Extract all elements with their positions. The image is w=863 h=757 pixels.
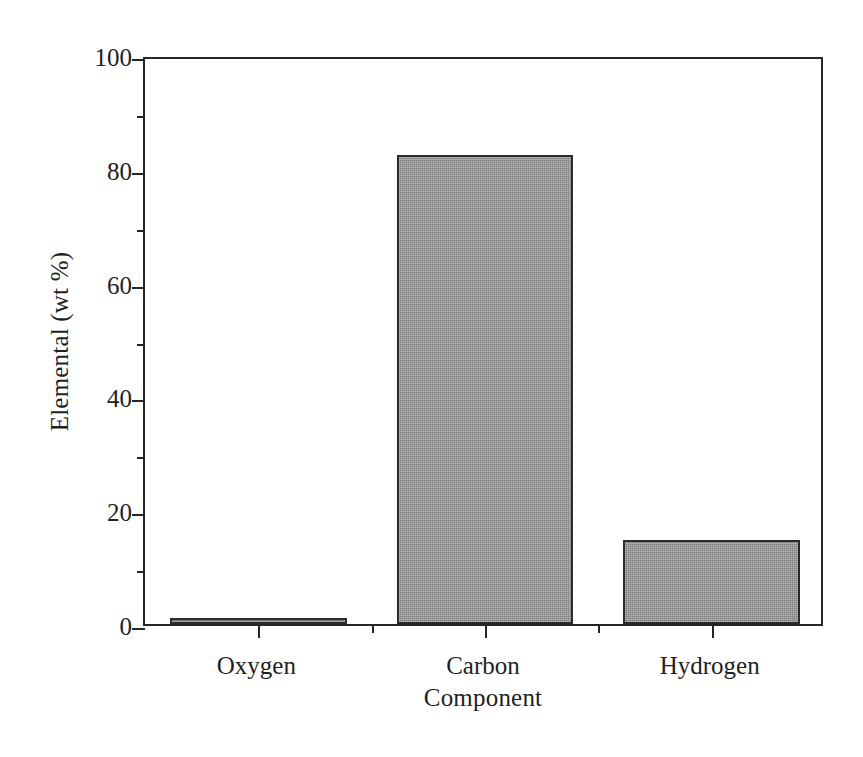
bar-hydrogen [623,540,800,624]
y-minor-tick-mark [137,571,145,573]
bar-carbon [397,155,574,624]
x-tick-label-hydrogen: Hydrogen [660,652,760,680]
y-tick-mark [132,400,145,402]
y-tick-label: 80 [107,158,132,186]
x-tick-label-oxygen: Oxygen [217,652,296,680]
y-tick-mark [132,173,145,175]
y-axis-title: Elemental (wt %) [40,57,80,626]
y-minor-tick-mark [137,116,145,118]
y-tick-label: 100 [95,44,133,72]
x-tick-mark [485,624,487,638]
x-minor-tick-mark [598,624,600,633]
x-tick-mark [258,624,260,638]
y-minor-tick-mark [137,344,145,346]
y-tick-label: 20 [107,500,132,528]
x-tick-mark [712,624,714,638]
plot-area: 020406080100 [143,57,823,626]
y-tick-mark [132,287,145,289]
x-axis-title: Component [143,684,823,712]
y-tick-mark [132,59,145,61]
x-tick-label-carbon: Carbon [446,652,520,680]
y-tick-mark [132,628,145,630]
y-tick-label: 0 [120,613,133,641]
y-tick-label: 40 [107,386,132,414]
y-tick-mark [132,514,145,516]
y-tick-label: 60 [107,272,132,300]
y-minor-tick-mark [137,457,145,459]
plot-inner: 020406080100 [145,59,821,624]
x-minor-tick-mark [372,624,374,633]
bar-chart-figure: Elemental (wt %) 020406080100 OxygenCarb… [0,0,863,757]
y-minor-tick-mark [137,230,145,232]
